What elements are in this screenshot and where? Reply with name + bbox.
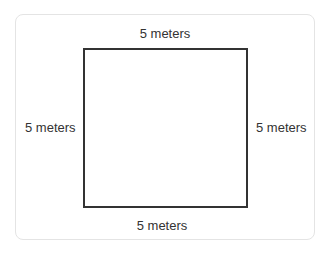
right-side-label: 5 meters	[256, 120, 307, 136]
bottom-side-label: 5 meters	[137, 218, 188, 234]
left-side-label: 5 meters	[25, 120, 76, 136]
square-shape	[83, 48, 248, 208]
top-side-label: 5 meters	[140, 26, 191, 42]
